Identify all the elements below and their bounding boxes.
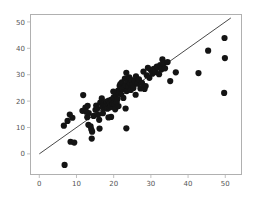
scatter-point (221, 35, 227, 41)
scatter-point (143, 83, 149, 89)
scatter-point (133, 92, 139, 98)
x-tick-label: 20 (109, 180, 118, 188)
scatter-point (110, 89, 116, 95)
scatter-point (162, 65, 168, 71)
scatter-point (222, 55, 228, 61)
scatter-point (105, 114, 111, 120)
y-tick-label: 0 (21, 150, 25, 158)
scatter-point (96, 117, 102, 123)
scatter-point (71, 139, 77, 145)
scatter-point (173, 69, 179, 75)
scatter-point (195, 70, 201, 76)
scatter-point (94, 105, 100, 111)
scatter-point (69, 115, 75, 121)
y-tick-label: 20 (16, 98, 25, 106)
scatter-point (120, 95, 126, 101)
scatter-point (221, 90, 227, 96)
scatter-point (89, 135, 95, 141)
x-tick-label: 0 (37, 180, 41, 188)
y-tick-label: 10 (16, 124, 25, 132)
scatter-point (167, 78, 173, 84)
scatter-point (165, 59, 171, 65)
plot-canvas: 0102030405001020304050 (0, 0, 255, 204)
x-tick-label: 40 (184, 180, 193, 188)
scatter-point (100, 110, 106, 116)
y-tick-label: 50 (16, 19, 25, 27)
scatter-point (83, 109, 89, 115)
scatter-point (122, 105, 128, 111)
x-tick-label: 10 (72, 180, 81, 188)
scatter-point (85, 103, 91, 109)
x-tick-label: 50 (221, 180, 230, 188)
y-tick-label: 40 (16, 45, 25, 53)
scatter-point (89, 129, 95, 135)
scatter-point (80, 92, 86, 98)
scatter-point (61, 162, 67, 168)
scatter-point (91, 113, 97, 119)
scatter-point (123, 125, 129, 131)
scatter-point (96, 125, 102, 131)
x-tick-label: 30 (146, 180, 155, 188)
y-tick-label: 30 (16, 71, 25, 79)
scatter-point (115, 103, 121, 109)
scatter-point (205, 48, 211, 54)
scatter-plot-figure: 0102030405001020304050 (0, 0, 255, 204)
